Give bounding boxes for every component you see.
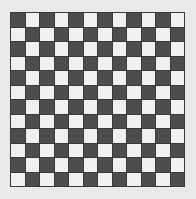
checker-cell-r11-c3 <box>40 158 54 172</box>
checker-cell-r1-c3 <box>40 13 54 27</box>
checker-cell-r1-c1 <box>11 13 25 27</box>
checker-cell-r3-c5 <box>69 42 83 56</box>
checker-cell-r12-c1 <box>11 173 25 187</box>
checker-cell-r12-c5 <box>69 173 83 187</box>
checker-cell-r11-c12 <box>171 158 185 172</box>
checker-cell-r9-c7 <box>98 129 112 143</box>
checker-cell-r5-c5 <box>69 71 83 85</box>
checker-cell-r3-c2 <box>26 42 40 56</box>
checker-cell-r10-c2 <box>26 144 40 158</box>
checker-cell-r3-c6 <box>84 42 98 56</box>
checker-cell-r9-c8 <box>113 129 127 143</box>
checker-cell-r10-c6 <box>84 144 98 158</box>
checker-cell-r8-c10 <box>142 115 156 129</box>
checker-cell-r11-c2 <box>26 158 40 172</box>
checker-cell-r5-c9 <box>127 71 141 85</box>
checker-cell-r1-c9 <box>127 13 141 27</box>
checker-cell-r1-c11 <box>156 13 170 27</box>
checker-cell-r10-c1 <box>11 144 25 158</box>
checker-cell-r2-c7 <box>98 28 112 42</box>
checker-cell-r6-c6 <box>84 86 98 100</box>
checker-cell-r12-c6 <box>84 173 98 187</box>
checker-cell-r2-c9 <box>127 28 141 42</box>
checker-cell-r5-c6 <box>84 71 98 85</box>
checker-cell-r3-c10 <box>142 42 156 56</box>
checker-cell-r3-c4 <box>55 42 69 56</box>
checker-cell-r6-c5 <box>69 86 83 100</box>
checker-cell-r2-c4 <box>55 28 69 42</box>
checker-cell-r12-c2 <box>26 173 40 187</box>
checker-cell-r3-c8 <box>113 42 127 56</box>
checker-cell-r10-c7 <box>98 144 112 158</box>
checker-cell-r1-c5 <box>69 13 83 27</box>
checker-cell-r8-c1 <box>11 115 25 129</box>
checker-cell-r6-c3 <box>40 86 54 100</box>
checker-cell-r10-c3 <box>40 144 54 158</box>
checker-cell-r4-c12 <box>171 57 185 71</box>
checker-cell-r5-c2 <box>26 71 40 85</box>
checker-cell-r11-c7 <box>98 158 112 172</box>
checker-cell-r6-c1 <box>11 86 25 100</box>
checker-cell-r2-c6 <box>84 28 98 42</box>
checker-cell-r4-c11 <box>156 57 170 71</box>
checker-cell-r7-c7 <box>98 100 112 114</box>
checker-cell-r11-c10 <box>142 158 156 172</box>
checker-cell-r7-c4 <box>55 100 69 114</box>
checkerboard-page <box>0 0 196 199</box>
checker-cell-r4-c8 <box>113 57 127 71</box>
checker-cell-r2-c3 <box>40 28 54 42</box>
checker-cell-r7-c6 <box>84 100 98 114</box>
checker-cell-r5-c7 <box>98 71 112 85</box>
checker-cell-r9-c12 <box>171 129 185 143</box>
checker-cell-r2-c11 <box>156 28 170 42</box>
checker-cell-r8-c9 <box>127 115 141 129</box>
checker-cell-r11-c4 <box>55 158 69 172</box>
checker-cell-r12-c9 <box>127 173 141 187</box>
checker-cell-r5-c10 <box>142 71 156 85</box>
checker-cell-r11-c6 <box>84 158 98 172</box>
checker-cell-r1-c10 <box>142 13 156 27</box>
checker-cell-r10-c11 <box>156 144 170 158</box>
checker-cell-r1-c4 <box>55 13 69 27</box>
checker-cell-r11-c5 <box>69 158 83 172</box>
checker-cell-r6-c8 <box>113 86 127 100</box>
checker-cell-r10-c12 <box>171 144 185 158</box>
checker-cell-r3-c9 <box>127 42 141 56</box>
checker-cell-r6-c12 <box>171 86 185 100</box>
checker-cell-r1-c8 <box>113 13 127 27</box>
checker-cell-r2-c12 <box>171 28 185 42</box>
checker-cell-r12-c12 <box>171 173 185 187</box>
checker-cell-r12-c11 <box>156 173 170 187</box>
checker-cell-r8-c2 <box>26 115 40 129</box>
checker-cell-r11-c8 <box>113 158 127 172</box>
checker-cell-r6-c7 <box>98 86 112 100</box>
checker-cell-r2-c8 <box>113 28 127 42</box>
checker-cell-r7-c1 <box>11 100 25 114</box>
checker-cell-r3-c11 <box>156 42 170 56</box>
checker-cell-r6-c2 <box>26 86 40 100</box>
checker-cell-r7-c8 <box>113 100 127 114</box>
checker-cell-r10-c4 <box>55 144 69 158</box>
checker-cell-r6-c4 <box>55 86 69 100</box>
checker-cell-r7-c11 <box>156 100 170 114</box>
checker-cell-r6-c11 <box>156 86 170 100</box>
checker-cell-r10-c9 <box>127 144 141 158</box>
checker-cell-r11-c11 <box>156 158 170 172</box>
checker-cell-r2-c10 <box>142 28 156 42</box>
checker-cell-r1-c6 <box>84 13 98 27</box>
checker-cell-r4-c4 <box>55 57 69 71</box>
checker-cell-r1-c7 <box>98 13 112 27</box>
checker-cell-r8-c3 <box>40 115 54 129</box>
checker-cell-r3-c3 <box>40 42 54 56</box>
checker-cell-r12-c10 <box>142 173 156 187</box>
checker-cell-r2-c5 <box>69 28 83 42</box>
checker-cell-r9-c6 <box>84 129 98 143</box>
checker-cell-r9-c11 <box>156 129 170 143</box>
checker-cell-r7-c9 <box>127 100 141 114</box>
checkerboard-grid <box>10 12 185 187</box>
checker-cell-r5-c3 <box>40 71 54 85</box>
checker-cell-r2-c2 <box>26 28 40 42</box>
checker-cell-r11-c9 <box>127 158 141 172</box>
checker-cell-r9-c2 <box>26 129 40 143</box>
checker-cell-r7-c3 <box>40 100 54 114</box>
